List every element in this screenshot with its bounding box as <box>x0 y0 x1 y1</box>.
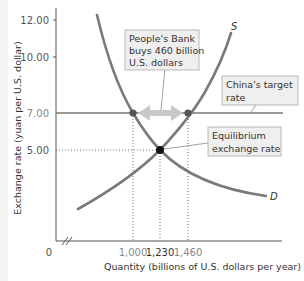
x-axis-label: Quantity (billions of U.S. dollars per y… <box>104 261 301 272</box>
x-tick-1230: 1,230 <box>146 247 175 258</box>
guide-lines <box>56 113 188 241</box>
bank-leader-line <box>161 68 165 110</box>
exchange-rate-chart: Exchange rate (yuan per U.S. dollar) 12.… <box>0 0 304 281</box>
supply-label: S <box>231 21 238 32</box>
supply-at-target-point <box>184 109 191 116</box>
y-tick-10: 10.00 <box>20 52 49 63</box>
y-tick-7: 7.00 <box>27 108 49 119</box>
equilibrium-annotation-line1: Equilibrium <box>212 130 266 141</box>
equilibrium-leader-line <box>164 143 208 149</box>
x-tick-1460: 1,460 <box>174 247 203 258</box>
page-margin <box>0 0 8 281</box>
y-tick-12: 12.00 <box>20 15 49 26</box>
y-axis-label: Exchange rate (yuan per U.S. dollar) <box>12 41 23 214</box>
target-annotation-line2: rate <box>226 92 245 103</box>
bank-annotation-line2: buys 460 billion <box>129 45 204 56</box>
double-arrow-icon <box>138 105 183 121</box>
origin-label: 0 <box>46 247 52 258</box>
equilibrium-annotation-line2: exchange rate <box>212 143 281 154</box>
x-tick-1000: 1,000 <box>119 247 148 258</box>
bank-annotation-line1: People's Bank <box>129 33 196 44</box>
demand-label: D <box>270 191 278 202</box>
equilibrium-point <box>156 146 164 154</box>
target-leader-line <box>251 105 256 112</box>
y-tick-5: 5.00 <box>27 145 49 156</box>
bank-annotation-line3: U.S. dollars <box>129 57 183 68</box>
target-annotation-line1: China's target <box>226 79 293 90</box>
demand-at-target-point <box>129 109 136 116</box>
